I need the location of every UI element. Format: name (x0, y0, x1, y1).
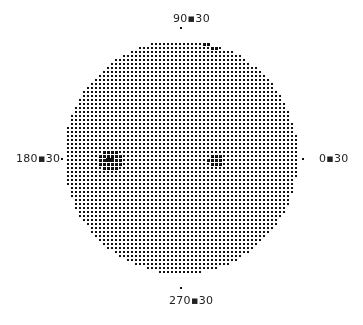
tick-top (180, 27, 182, 29)
tick-left (61, 158, 63, 160)
label-bottom-270: 270▪30 (169, 295, 213, 307)
label-right-0: 0▪30 (319, 153, 349, 165)
tick-bottom (180, 287, 182, 289)
label-left-180: 180▪30 (16, 153, 60, 165)
tick-right (302, 158, 304, 160)
label-top-90: 90▪30 (173, 13, 210, 25)
